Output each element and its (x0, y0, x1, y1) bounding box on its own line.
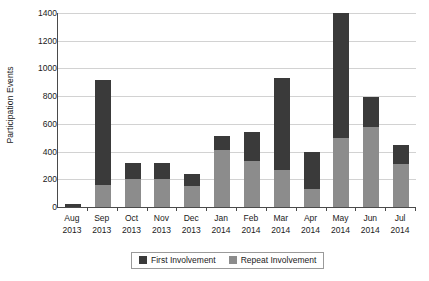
bar-segment-first-involvement (154, 163, 170, 179)
bar-segment-first-involvement (304, 152, 320, 189)
y-axis-tick-label: 1400 (29, 9, 57, 18)
bar-segment-first-involvement (363, 97, 379, 127)
plot-area (57, 13, 416, 208)
bar-segment-repeat-involvement (244, 161, 260, 207)
y-axis-tick-label: 1200 (29, 36, 57, 45)
bar-segment-first-involvement (214, 136, 230, 150)
bar-segment-first-involvement (184, 174, 200, 186)
bar-stack (393, 145, 409, 207)
y-axis-title: Participation Events (0, 0, 20, 210)
bar-segment-first-involvement (95, 80, 111, 185)
x-axis-tick-mark (236, 207, 237, 211)
bar-segment-repeat-involvement (363, 127, 379, 207)
participation-events-stacked-bar-chart: Participation Events 0200400600800100012… (0, 0, 429, 281)
x-axis-tick-label: Jul2014 (385, 213, 415, 236)
x-axis-tick-mark (206, 207, 207, 211)
legend-item: Repeat Involvement (229, 255, 317, 265)
bar-segment-repeat-involvement (274, 170, 290, 207)
bar-segment-first-involvement (274, 78, 290, 169)
y-axis-tick-label: 0 (29, 203, 57, 212)
y-axis-tick-label: 200 (29, 175, 57, 184)
x-axis-label-container: Aug2013Sep2013Oct2013Nov2013Dec2013Jan20… (57, 213, 415, 239)
bar-segment-repeat-involvement (214, 150, 230, 207)
bar-segment-first-involvement (244, 132, 260, 161)
x-axis-tick-mark (326, 207, 327, 211)
legend-color-swatch (139, 256, 147, 264)
x-axis-tick-label: Aug2013 (57, 213, 87, 236)
x-axis-tick-mark (296, 207, 297, 211)
bar-segment-first-involvement (125, 163, 141, 180)
bar-segment-first-involvement (393, 145, 409, 164)
x-axis-tick-label: Jan2014 (206, 213, 236, 236)
bar-stack (333, 13, 349, 207)
bar-stack (244, 132, 260, 207)
bar-stack (363, 97, 379, 207)
x-axis-tick-label: Oct2013 (117, 213, 147, 236)
bar-segment-repeat-involvement (393, 164, 409, 207)
x-axis-tick-mark (87, 207, 88, 211)
x-axis-tick-label: Nov2013 (147, 213, 177, 236)
bar-stack (214, 136, 230, 207)
legend-item-label: First Involvement (151, 255, 216, 265)
legend-item-label: Repeat Involvement (241, 255, 317, 265)
x-axis-tick-mark (355, 207, 356, 211)
x-axis-tick-label: May2014 (326, 213, 356, 236)
x-axis-tick-label: Feb2014 (236, 213, 266, 236)
x-axis-tick-mark (176, 207, 177, 211)
bar-segment-repeat-involvement (333, 138, 349, 207)
y-axis-tick-container: 0200400600800100012001400 (21, 13, 57, 207)
x-axis-tick-label: Sep2013 (87, 213, 117, 236)
x-axis-tick-label: Apr2014 (296, 213, 326, 236)
bar-stack (95, 80, 111, 207)
bar-stack (125, 163, 141, 207)
legend-item: First Involvement (139, 255, 216, 265)
x-axis-tick-mark (385, 207, 386, 211)
x-axis-tick-container (57, 207, 415, 212)
x-axis-tick-mark (117, 207, 118, 211)
bar-segment-repeat-involvement (125, 179, 141, 207)
bar-stack (154, 163, 170, 207)
x-axis-tick-mark (147, 207, 148, 211)
legend-color-swatch (229, 256, 237, 264)
bar-segment-repeat-involvement (154, 179, 170, 207)
bars-layer (58, 13, 416, 207)
x-axis-tick-label: Mar2014 (266, 213, 296, 236)
bar-stack (304, 152, 320, 207)
x-axis-tick-mark (266, 207, 267, 211)
x-axis-tick-mark (415, 207, 416, 211)
bar-segment-repeat-involvement (95, 185, 111, 207)
bar-segment-repeat-involvement (304, 189, 320, 207)
y-axis-tick-label: 800 (29, 92, 57, 101)
y-axis-tick-label: 600 (29, 120, 57, 129)
x-axis-tick-label: Dec2013 (176, 213, 206, 236)
bar-segment-first-involvement (333, 13, 349, 138)
y-axis-tick-label: 400 (29, 147, 57, 156)
bar-stack (184, 174, 200, 207)
chart-legend: First InvolvementRepeat Involvement (131, 252, 324, 269)
bar-stack (274, 78, 290, 207)
y-axis-tick-label: 1000 (29, 64, 57, 73)
y-axis-title-label: Participation Events (5, 66, 15, 143)
x-axis-tick-label: Jun2014 (355, 213, 385, 236)
bar-segment-repeat-involvement (184, 186, 200, 207)
